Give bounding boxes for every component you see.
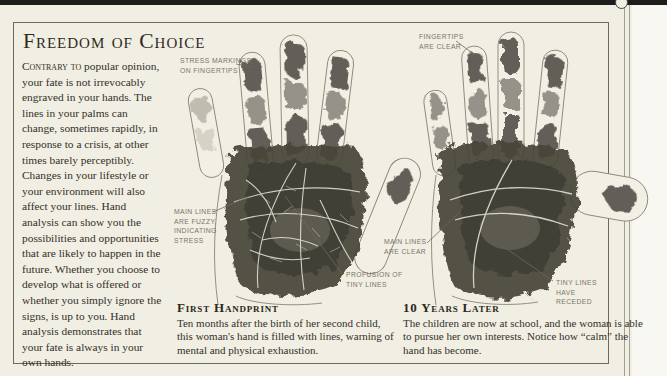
intro-lead: Contrary to	[22, 60, 81, 72]
intro-paragraph: Contrary to popular opinion, your fate i…	[22, 59, 162, 371]
annotation-stress-markings: STRESS MARKINGS ON FINGERTIPS	[180, 56, 251, 75]
binder-hole	[615, 0, 628, 9]
caption-ten-years-later-body: The children are now at school, and the …	[403, 317, 645, 357]
annotation-profusion-tiny-lines: PROFUSION OF TINY LINES	[346, 270, 403, 289]
caption-first-handprint-body: Ten months after the birth of her second…	[177, 317, 399, 357]
caption-ten-years-later-title: 10 Years Later	[403, 300, 500, 316]
intro-rest: popular opinion, your fate is not irrevo…	[22, 60, 161, 368]
annotation-fingertips-clear: FINGERTIPS ARE CLEAR	[419, 32, 464, 51]
book-page: Freedom of Choice Contrary to popular op…	[0, 0, 667, 376]
annotation-main-lines-clear: MAIN LINES ARE CLEAR	[384, 237, 427, 256]
page-top-band	[0, 0, 667, 5]
annotation-main-lines-fuzzy: MAIN LINES ARE FUZZY, INDICATING STRESS	[174, 207, 217, 245]
annotation-tiny-lines-receded: TINY LINES HAVE RECEDED	[556, 278, 597, 307]
caption-first-handprint-title: First Handprint	[177, 300, 279, 316]
page-title: Freedom of Choice	[23, 29, 263, 54]
